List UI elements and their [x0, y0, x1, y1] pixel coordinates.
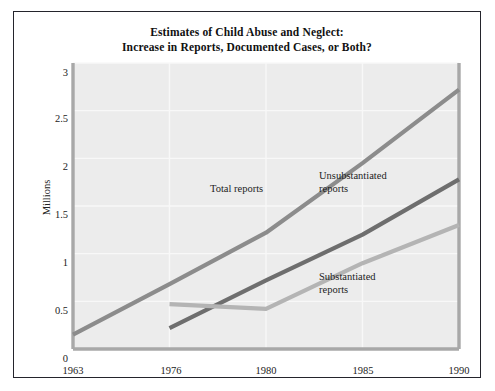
series-annotation-unsubstantiated-line-2: reports — [319, 182, 387, 195]
y-tick-label: 2.5 — [28, 113, 68, 124]
plot-area: Millions 3 2.5 2 1.5 1 0.5 0 1963 1976 1… — [14, 12, 482, 379]
y-tick-label: 1.5 — [28, 209, 68, 220]
x-tick-label: 1980 — [236, 365, 296, 376]
x-tick-label: 1985 — [333, 365, 393, 376]
series-annotation-unsubstantiated-reports: Unsubstantiated reports — [319, 169, 387, 195]
series-annotation-substantiated-reports: Substantiated reports — [319, 270, 376, 296]
y-tick-label: 0 — [28, 353, 68, 364]
y-tick-label: 2 — [28, 161, 68, 172]
x-tick-label: 1963 — [43, 365, 103, 376]
series-annotation-total-reports: Total reports — [210, 182, 263, 195]
series-annotation-substantiated-line-1: Substantiated — [319, 270, 376, 283]
series-annotation-total-reports-text: Total reports — [210, 183, 263, 194]
x-tick-label: 1976 — [141, 365, 201, 376]
y-tick-label: 3 — [28, 67, 68, 78]
y-tick-label: 0.5 — [28, 305, 68, 316]
x-tick-label: 1990 — [429, 365, 489, 376]
y-tick-label: 1 — [28, 257, 68, 268]
series-annotation-substantiated-line-2: reports — [319, 283, 376, 296]
chart-figure: Estimates of Child Abuse and Neglect: In… — [13, 11, 481, 378]
series-annotation-unsubstantiated-line-1: Unsubstantiated — [319, 169, 387, 182]
plot-canvas — [14, 12, 482, 379]
